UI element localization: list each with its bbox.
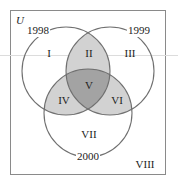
universe-label: U <box>16 14 25 26</box>
set-label-1999: 1999 <box>128 24 151 36</box>
venn-diagram: U 1998 1999 2000 I II III IV V VI VII VI… <box>0 0 178 184</box>
region-label-VI: VI <box>111 94 123 106</box>
set-label-2000: 2000 <box>77 150 100 162</box>
region-label-VII: VII <box>81 128 97 140</box>
region-label-I: I <box>47 47 51 59</box>
region-label-III: III <box>125 47 136 59</box>
region-label-II: II <box>85 47 93 59</box>
region-label-VIII: VIII <box>136 158 155 170</box>
set-label-1998: 1998 <box>27 24 50 36</box>
region-label-V: V <box>85 79 93 91</box>
region-label-IV: IV <box>58 94 70 106</box>
